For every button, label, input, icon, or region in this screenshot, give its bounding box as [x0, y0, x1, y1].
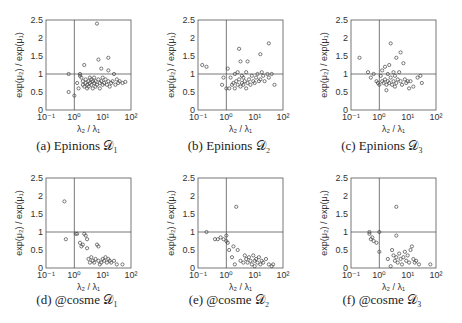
data-point [267, 76, 270, 79]
panel-caption: (d) @cosme 𝒟₁ [0, 292, 154, 308]
data-point [262, 74, 265, 77]
data-point [407, 261, 410, 264]
y-axis-label: exp(μ₂) / exp(μ₁) [14, 32, 24, 97]
data-point [369, 76, 372, 79]
panel-caption: (a) Epinions 𝒟₁ [0, 138, 154, 154]
data-point [395, 256, 398, 259]
data-point [77, 87, 80, 90]
x-tick-label: 10¹ [248, 270, 261, 280]
data-point [63, 200, 66, 203]
axes-frame [46, 178, 131, 268]
scatter-plot: 00.511.522.510⁻¹10⁰10¹10²λ₂ / λ₁exp(μ₂) … [0, 158, 154, 298]
x-tick-label: 10² [276, 112, 289, 122]
x-tick-label: 10⁰ [372, 112, 386, 122]
y-tick-label: 1.5 [182, 51, 195, 61]
data-point [257, 256, 260, 259]
panel-f: 00.511.522.510⁻¹10⁰10¹10²λ₂ / λ₁exp(μ₂) … [305, 158, 459, 319]
y-axis-label: exp(μ₂) / exp(μ₁) [319, 190, 329, 255]
y-tick-label: 2 [38, 191, 43, 201]
scatter-plot: 00.511.522.510⁻¹10⁰10¹10²λ₂ / λ₁exp(μ₂) … [0, 0, 154, 140]
data-point [396, 261, 399, 264]
y-tick-label: 2 [343, 33, 348, 43]
panel-caption: (e) @cosme 𝒟₂ [152, 292, 306, 308]
data-point [267, 42, 270, 45]
axes-frame [351, 178, 436, 268]
x-tick-label: 10⁰ [67, 270, 81, 280]
data-point [107, 56, 110, 59]
x-axis-label: λ₂ / λ₁ [77, 282, 100, 292]
y-axis-label: exp(μ₂) / exp(μ₁) [14, 190, 24, 255]
y-tick-label: 1 [343, 69, 348, 79]
y-tick-label: 1.5 [335, 51, 348, 61]
data-point [250, 74, 253, 77]
panel-a: 00.511.522.510⁻¹10⁰10¹10²λ₂ / λ₁exp(μ₂) … [0, 0, 154, 161]
x-tick-label: 10⁻¹ [189, 270, 207, 280]
data-point [115, 263, 118, 266]
y-tick-label: 0.5 [182, 87, 195, 97]
axes-frame [351, 20, 436, 110]
y-tick-label: 2.5 [335, 173, 348, 183]
data-point [420, 81, 423, 84]
x-tick-label: 10² [429, 270, 442, 280]
y-tick-label: 0.5 [335, 87, 348, 97]
data-point [381, 69, 384, 72]
data-point [390, 248, 393, 251]
data-point [259, 53, 262, 56]
x-axis-label: λ₂ / λ₁ [229, 124, 252, 134]
y-tick-label: 1 [38, 227, 43, 237]
y-axis-label: exp(μ₂) / exp(μ₁) [166, 32, 176, 97]
y-tick-label: 0.5 [335, 245, 348, 255]
data-point [76, 81, 79, 84]
data-point [64, 238, 67, 241]
data-point [252, 254, 255, 257]
data-point [393, 85, 396, 88]
data-point [236, 71, 239, 74]
x-tick-label: 10² [124, 112, 137, 122]
x-tick-label: 10⁰ [219, 270, 233, 280]
scatter-plot: 00.511.522.510⁻¹10⁰10¹10²λ₂ / λ₁exp(μ₂) … [152, 158, 306, 298]
x-tick-label: 10² [276, 270, 289, 280]
data-point [395, 205, 398, 208]
y-tick-label: 1.5 [30, 51, 43, 61]
axes-frame [198, 20, 283, 110]
data-point [232, 245, 235, 248]
x-tick-label: 10¹ [96, 270, 109, 280]
y-tick-label: 2 [190, 33, 195, 43]
data-point [100, 67, 103, 70]
x-tick-label: 10⁻¹ [37, 270, 55, 280]
data-point [233, 263, 236, 266]
y-axis-label: exp(μ₂) / exp(μ₁) [319, 32, 329, 97]
data-point [229, 76, 232, 79]
data-point [403, 250, 406, 253]
data-point [386, 257, 389, 260]
data-point [222, 76, 225, 79]
data-point [417, 263, 420, 266]
y-tick-label: 1.5 [335, 209, 348, 219]
data-point [124, 80, 127, 83]
x-tick-label: 10⁻¹ [342, 270, 360, 280]
data-point [205, 65, 208, 68]
data-point [121, 263, 124, 266]
y-tick-label: 1 [343, 227, 348, 237]
data-point [253, 265, 256, 268]
scatter-plot: 00.511.522.510⁻¹10⁰10¹10²λ₂ / λ₁exp(μ₂) … [305, 0, 459, 140]
y-tick-label: 1 [190, 69, 195, 79]
data-point [112, 259, 115, 262]
panel-b: 00.511.522.510⁻¹10⁰10¹10²λ₂ / λ₁exp(μ₂) … [152, 0, 306, 161]
data-point [399, 51, 402, 54]
x-tick-label: 10² [429, 112, 442, 122]
y-tick-label: 2.5 [182, 173, 195, 183]
x-axis-label: λ₂ / λ₁ [382, 124, 405, 134]
data-point [249, 83, 252, 86]
data-point [236, 248, 239, 251]
x-axis-label: λ₂ / λ₁ [382, 282, 405, 292]
x-tick-label: 10² [124, 270, 137, 280]
data-point [263, 80, 266, 83]
data-point [400, 83, 403, 86]
data-point [395, 234, 398, 237]
data-point [398, 252, 401, 255]
data-point [242, 261, 245, 264]
data-point [398, 71, 401, 74]
data-point [233, 87, 236, 90]
data-point [83, 63, 86, 66]
